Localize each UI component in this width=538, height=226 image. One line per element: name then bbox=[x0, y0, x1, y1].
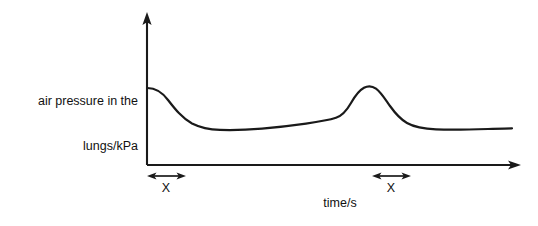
interval-marker-2-arrow bbox=[372, 172, 411, 179]
y-axis-label-line-2: lungs/kPa bbox=[8, 139, 138, 154]
pressure-curve-line bbox=[148, 86, 513, 130]
y-axis-label-line-1: air pressure in the bbox=[8, 94, 138, 109]
interval-marker-2-label: X bbox=[371, 181, 411, 195]
x-axis-label: time/s bbox=[280, 196, 400, 211]
pressure-time-graph-figure: air pressure in the lungs/kPa time/s X X bbox=[0, 0, 538, 226]
interval-marker-1-label: X bbox=[146, 181, 186, 195]
interval-marker-1-arrow bbox=[147, 172, 186, 179]
y-axis-label: air pressure in the lungs/kPa bbox=[8, 64, 138, 184]
x-axis bbox=[147, 161, 521, 170]
